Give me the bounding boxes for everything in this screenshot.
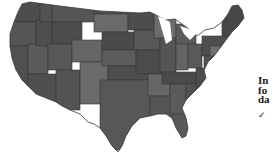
us-map: [0, 0, 264, 159]
checkmark-icon: ✓: [258, 110, 266, 120]
side-heading-line-3: da: [258, 95, 276, 105]
side-heading: In fo da: [258, 76, 276, 105]
